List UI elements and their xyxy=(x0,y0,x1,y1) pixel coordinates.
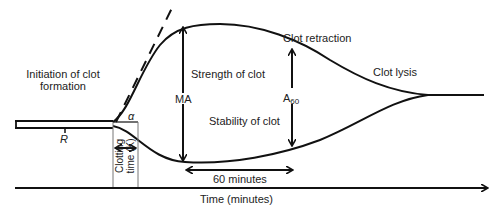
a60-label: A60 xyxy=(283,92,299,108)
ma-label: MA xyxy=(175,93,192,105)
time-axis-label: Time (minutes) xyxy=(200,193,273,205)
initiation-label: Initiation of clot formation xyxy=(8,68,118,92)
teg-diagram: Initiation of clot formation R α MA Stre… xyxy=(0,0,499,212)
sixty-minutes-label: 60 minutes xyxy=(213,173,267,185)
r-label: R xyxy=(60,133,68,145)
clot-retraction-label: Clot retraction xyxy=(283,32,351,44)
r-baseline xyxy=(15,121,113,133)
strength-label: Strength of clot xyxy=(191,68,265,80)
alpha-label: α xyxy=(128,110,134,122)
clotting-time-label: Clotting time (K) xyxy=(114,126,136,186)
stability-label: Stability of clot xyxy=(209,115,280,127)
lower-curve xyxy=(113,95,428,163)
clot-lysis-label: Clot lysis xyxy=(373,66,417,78)
alpha-tangent xyxy=(116,8,172,122)
